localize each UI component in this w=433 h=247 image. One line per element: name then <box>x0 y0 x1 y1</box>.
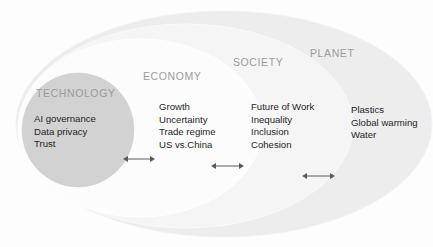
ring-item: Plastics <box>351 104 418 117</box>
ring-item: Cohesion <box>251 139 314 152</box>
ring-items-society: Future of Work Inequality Inclusion Cohe… <box>251 101 314 151</box>
ring-item: Trade regime <box>159 126 216 139</box>
ring-item: Global warming <box>351 117 418 130</box>
ring-label-planet: PLANET <box>310 47 354 59</box>
ring-item: US vs.China <box>159 139 216 152</box>
ring-items-planet: Plastics Global warming Water <box>351 104 418 142</box>
ring-item: AI governance <box>34 113 96 126</box>
ring-item: Growth <box>159 101 216 114</box>
nested-domains-diagram: TECHNOLOGY AI governance Data privacy Tr… <box>0 0 433 247</box>
ring-item: Uncertainty <box>159 114 216 127</box>
ring-item: Inclusion <box>251 126 314 139</box>
ring-items-economy: Growth Uncertainty Trade regime US vs.Ch… <box>159 101 216 151</box>
ring-item: Water <box>351 129 418 142</box>
ring-items-technology: AI governance Data privacy Trust <box>34 113 96 151</box>
ring-label-technology: TECHNOLOGY <box>36 87 116 99</box>
ring-label-society: SOCIETY <box>233 56 283 68</box>
ring-item: Inequality <box>251 114 314 127</box>
ring-label-economy: ECONOMY <box>143 70 201 82</box>
ring-item: Trust <box>34 138 96 151</box>
ring-item: Future of Work <box>251 101 314 114</box>
ring-item: Data privacy <box>34 126 96 139</box>
